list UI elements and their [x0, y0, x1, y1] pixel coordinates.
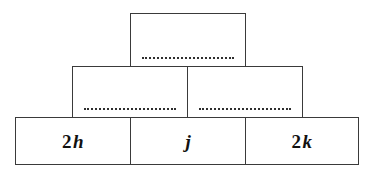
term-variable: j: [186, 131, 192, 152]
answer-blank-wrapper: [188, 108, 302, 110]
term-coefficient: 2: [62, 131, 73, 152]
term-variable: k: [303, 131, 313, 152]
term-variable: h: [73, 131, 84, 152]
pyramid-cell-label: 2k: [292, 132, 313, 151]
pyramid-cell-middle-2[interactable]: [187, 66, 303, 118]
pyramid-cell-bottom-1[interactable]: 2h: [15, 117, 131, 165]
term-coefficient: 2: [292, 131, 303, 152]
pyramid-cell-top-1[interactable]: [130, 13, 246, 67]
answer-blank-wrapper: [73, 108, 187, 110]
answer-blank-line[interactable]: [84, 108, 176, 110]
answer-blank-line[interactable]: [199, 108, 291, 110]
answer-blank-line[interactable]: [142, 57, 234, 59]
pyramid-cell-middle-1[interactable]: [72, 66, 188, 118]
pyramid-cell-bottom-2[interactable]: j: [130, 117, 246, 165]
answer-blank-wrapper: [131, 57, 245, 59]
pyramid-diagram: 2h j 2k: [0, 0, 373, 172]
pyramid-cell-label: 2h: [62, 132, 84, 151]
pyramid-cell-bottom-3[interactable]: 2k: [245, 117, 359, 165]
pyramid-cell-label: j: [185, 132, 192, 151]
